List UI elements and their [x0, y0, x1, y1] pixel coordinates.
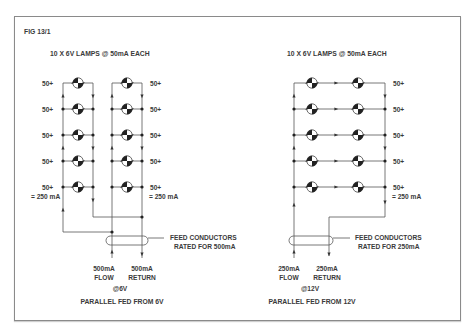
wiring-diagram: FIG 13/1 10 X 6V LAMPS @ 50mA EACH [0, 0, 475, 333]
arrow-icon [292, 81, 386, 256]
lamp-icon [120, 78, 134, 192]
svg-text:50+: 50+ [42, 132, 53, 139]
svg-text:50+: 50+ [393, 106, 404, 113]
svg-text:50+: 50+ [150, 184, 161, 191]
svg-text:@6V: @6V [113, 285, 128, 292]
bank-total: = 250 mA [392, 193, 421, 200]
svg-text:@12V: @12V [301, 285, 320, 292]
left-circuit: 10 X 6V LAMPS @ 50mA EACH [31, 50, 237, 305]
svg-text:50+: 50+ [42, 106, 53, 113]
svg-text:50+: 50+ [393, 184, 404, 191]
svg-text:50+: 50+ [150, 132, 161, 139]
svg-text:RATED FOR 250mA: RATED FOR 250mA [358, 243, 420, 250]
left-bank-total: = 250 mA [31, 193, 60, 200]
right-caption: PARALLEL FED FROM 12V [269, 298, 356, 305]
svg-text:50+: 50+ [393, 158, 404, 165]
left-circuit-title: 10 X 6V LAMPS @ 50mA EACH [50, 50, 150, 57]
svg-text:500mA: 500mA [131, 265, 153, 272]
right-circuit: 10 X 6V LAMPS @ 50mA EACH 50+ [269, 50, 423, 305]
right-bank-total: = 250 mA [149, 193, 178, 200]
svg-text:50+: 50+ [393, 132, 404, 139]
feed-note: FEED CONDUCTORS [355, 234, 422, 241]
svg-text:50+: 50+ [150, 158, 161, 165]
svg-text:RETURN: RETURN [313, 274, 341, 281]
svg-text:250mA: 250mA [278, 265, 300, 272]
svg-text:RATED FOR 500mA: RATED FOR 500mA [174, 243, 236, 250]
svg-text:50+: 50+ [42, 80, 53, 87]
svg-text:50+: 50+ [393, 80, 404, 87]
svg-text:50+: 50+ [42, 158, 53, 165]
right-circuit-title: 10 X 6V LAMPS @ 50mA EACH [287, 50, 387, 57]
svg-text:250mA: 250mA [316, 265, 338, 272]
figure-label: FIG 13/1 [24, 28, 51, 35]
svg-text:RETURN: RETURN [128, 274, 156, 281]
svg-text:500mA: 500mA [93, 265, 115, 272]
left-caption: PARALLEL FED FROM 6V [80, 298, 164, 305]
svg-text:50+: 50+ [150, 80, 161, 87]
svg-text:50+: 50+ [42, 184, 53, 191]
feed-note: FEED CONDUCTORS [170, 234, 237, 241]
lamp-icon [71, 78, 85, 192]
svg-text:FLOW: FLOW [94, 274, 114, 281]
svg-text:FLOW: FLOW [279, 274, 299, 281]
svg-text:50+: 50+ [150, 106, 161, 113]
